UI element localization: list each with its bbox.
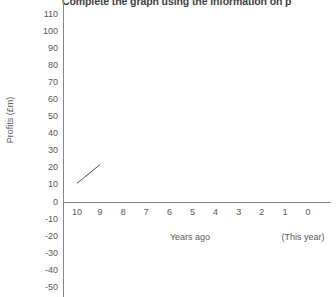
this-year-note: (This year) xyxy=(272,232,334,242)
y-axis-tick: 0 xyxy=(28,198,58,207)
x-axis-tick: 5 xyxy=(181,207,205,217)
y-axis-tick: 50 xyxy=(28,112,58,121)
y-axis-tick: 40 xyxy=(28,129,58,138)
y-axis-tick-labels: 1201101009080706050403020100-10-20-30-40… xyxy=(28,0,58,297)
y-axis-tick: 20 xyxy=(28,163,58,172)
x-axis-tick: 8 xyxy=(111,207,135,217)
x-axis-line xyxy=(63,202,331,203)
y-axis-tick: 10 xyxy=(28,180,58,189)
chart-container: Complete the graph using the information… xyxy=(0,0,336,297)
x-axis-tick: 1 xyxy=(273,207,297,217)
y-axis-tick: 60 xyxy=(28,95,58,104)
y-axis-tick: 30 xyxy=(28,146,58,155)
y-axis-tick: 80 xyxy=(28,61,58,70)
y-axis-tick: 90 xyxy=(28,44,58,53)
x-axis-tick: 0 xyxy=(296,207,320,217)
x-axis-tick: 9 xyxy=(88,207,112,217)
x-axis-tick: 3 xyxy=(227,207,251,217)
x-axis-tick: 7 xyxy=(134,207,158,217)
chart-title: Complete the graph using the information… xyxy=(62,0,336,7)
x-axis-tick-labels: 109876543210 xyxy=(0,207,336,221)
data-series-line xyxy=(77,164,100,183)
y-axis-tick: 110 xyxy=(28,10,58,19)
y-axis-tick: 70 xyxy=(28,78,58,87)
y-axis-tick: 120 xyxy=(28,0,58,2)
x-axis-label: Years ago xyxy=(150,232,230,242)
x-axis-tick: 2 xyxy=(250,207,274,217)
x-axis-tick: 6 xyxy=(157,207,181,217)
x-axis-tick: 10 xyxy=(65,207,89,217)
y-axis-tick: -50 xyxy=(28,283,58,292)
y-axis-tick: -30 xyxy=(28,249,58,258)
y-axis-tick: 100 xyxy=(28,27,58,36)
y-axis-tick: -40 xyxy=(28,266,58,275)
y-axis-label: Profits (£m) xyxy=(5,85,15,155)
y-axis-tick: -20 xyxy=(28,232,58,241)
x-axis-tick: 4 xyxy=(204,207,228,217)
y-axis-line xyxy=(63,0,64,297)
